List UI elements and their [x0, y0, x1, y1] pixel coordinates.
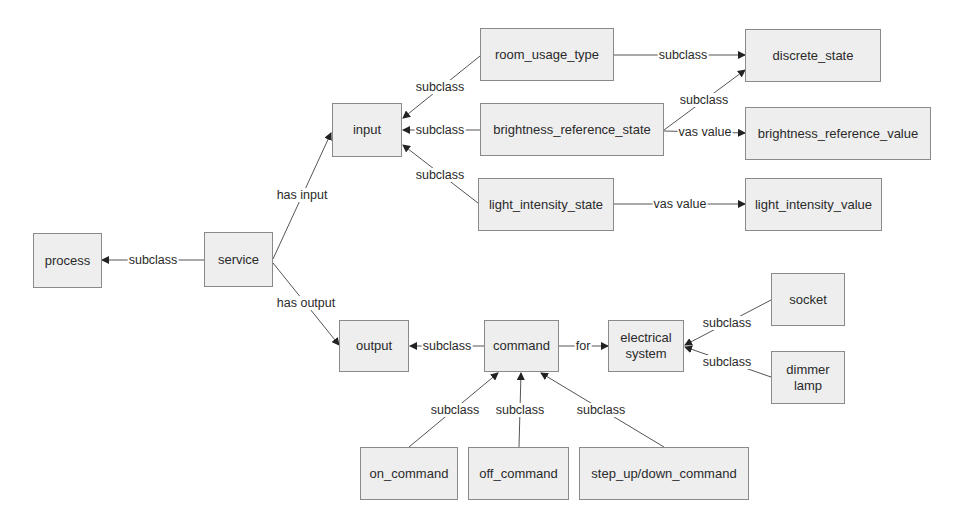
- node-service[interactable]: service: [204, 232, 273, 287]
- edge-label: subclass: [415, 80, 466, 94]
- node-light-intensity-state[interactable]: light_intensity_state: [478, 178, 614, 231]
- node-electrical-system[interactable]: electrical system: [608, 320, 684, 372]
- node-label: service: [218, 252, 259, 268]
- edge-label: for: [575, 339, 592, 353]
- node-label: input: [353, 122, 381, 138]
- node-socket[interactable]: socket: [771, 273, 845, 326]
- node-label: process: [45, 253, 91, 269]
- edge-label: subclass: [430, 403, 481, 417]
- edge-label: has input: [276, 188, 329, 202]
- edge-label: subclass: [702, 355, 753, 369]
- node-label: dimmer lamp: [783, 362, 833, 394]
- edge-label: subclass: [128, 253, 179, 267]
- node-label: off_command: [479, 466, 558, 482]
- edge-label: has output: [276, 296, 336, 310]
- node-step-command[interactable]: step_up/down_command: [579, 447, 749, 500]
- edge-label: subclass: [415, 168, 466, 182]
- node-label: step_up/down_command: [591, 466, 736, 482]
- edge-label: subclass: [679, 93, 730, 107]
- edge-label: subclass: [576, 403, 627, 417]
- node-command[interactable]: command: [484, 320, 559, 372]
- node-on-command[interactable]: on_command: [360, 447, 458, 500]
- edge-label: subclass: [658, 48, 709, 62]
- node-off-command[interactable]: off_command: [468, 447, 569, 500]
- node-light-intensity-value[interactable]: light_intensity_value: [745, 178, 882, 231]
- node-discrete-state[interactable]: discrete_state: [745, 29, 881, 82]
- edge-label: vas value: [653, 197, 708, 211]
- node-label: discrete_state: [773, 48, 854, 64]
- node-label: on_command: [370, 466, 449, 482]
- node-label: socket: [789, 292, 827, 308]
- node-label: electrical system: [616, 330, 676, 362]
- node-dimmer-lamp[interactable]: dimmer lamp: [771, 351, 845, 404]
- edge-label: subclass: [415, 123, 466, 137]
- node-brightness-reference-state[interactable]: brightness_reference_state: [480, 103, 664, 156]
- edge-label: vas value: [678, 125, 733, 139]
- node-label: brightness_reference_value: [758, 126, 918, 142]
- node-label: command: [493, 338, 550, 354]
- edge-label: subclass: [702, 316, 753, 330]
- node-brightness-reference-value[interactable]: brightness_reference_value: [745, 107, 931, 160]
- node-process[interactable]: process: [33, 233, 102, 288]
- node-label: light_intensity_state: [489, 197, 603, 213]
- node-label: light_intensity_value: [755, 197, 872, 213]
- node-output[interactable]: output: [339, 320, 409, 372]
- node-input[interactable]: input: [332, 103, 402, 157]
- edge-label: subclass: [422, 339, 473, 353]
- edge-label: subclass: [495, 403, 546, 417]
- node-room-usage-type[interactable]: room_usage_type: [480, 28, 614, 81]
- node-label: output: [356, 338, 392, 354]
- node-label: brightness_reference_state: [493, 122, 651, 138]
- node-label: room_usage_type: [495, 47, 599, 63]
